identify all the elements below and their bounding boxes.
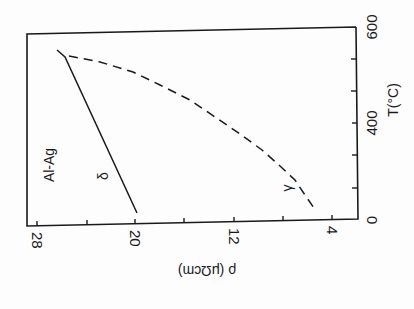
rho-tick-12: 12 [226,228,243,245]
rho-tick-4: 4 [324,226,341,234]
rho-axis-title: ρ (μΩcm) [178,263,236,279]
temperature-tick-400: 400 [363,110,380,135]
gamma-series-label: γ [279,185,295,192]
alloy-annotation: Al-Ag [41,148,57,182]
temperature-axis-title: T(°C) [385,83,401,117]
temperature-tick-600: 600 [363,14,380,39]
delta-series-label: δ [95,172,111,180]
temperature-tick-0: 0 [363,216,380,224]
rho-tick-20: 20 [127,230,144,247]
resistivity-chart: 28 20 12 4 0 400 600 T(°C) ρ (μΩcm) Al-A… [0,0,414,309]
rho-tick-28: 28 [29,232,46,249]
delta-series-line [57,50,137,213]
